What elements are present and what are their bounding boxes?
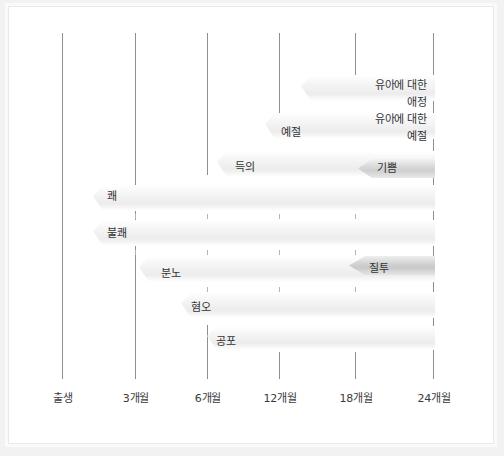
axis-tick-6m	[207, 362, 208, 379]
bar-label-jealousy: 질투	[369, 262, 389, 276]
tick-mark	[135, 250, 136, 255]
tick-mark	[135, 214, 136, 219]
courtesy-infants-line2: 예절	[309, 128, 427, 145]
bar-label-delight: 기쁨	[377, 162, 397, 176]
tick-mark	[355, 214, 356, 219]
tick-mark	[279, 287, 280, 292]
bar-label-anger: 분노	[161, 267, 181, 281]
affection-label-line1: 유아에 대한	[309, 77, 427, 94]
tick-mark	[355, 287, 356, 292]
bar-label-pleasure: 쾌	[107, 190, 117, 204]
gridline-6m-top	[207, 33, 208, 175]
bar-disgust	[181, 292, 435, 318]
axis-label-birth: 출생	[53, 389, 73, 405]
axis-tick-18m	[355, 362, 356, 379]
axis-label-3m: 3개월	[123, 389, 149, 405]
axis-tick-12m	[279, 362, 280, 379]
tick-mark	[279, 214, 280, 219]
courtesy-infants-line1: 유아에 대한	[309, 111, 427, 128]
bar-label-elation: 득의	[235, 161, 255, 175]
gridline-birth-top	[62, 33, 63, 378]
bar-label-courtesy: 예절	[281, 126, 301, 140]
gridline-3m-bottom	[135, 253, 136, 378]
axis-label-18m: 18개월	[339, 389, 372, 405]
axis-label-6m: 6개월	[195, 389, 221, 405]
bar-label-courtesy-to-infants: 유아에 대한 예절	[309, 111, 427, 145]
bar-jealousy	[349, 256, 435, 275]
tick-mark	[207, 287, 208, 292]
tick-mark	[355, 250, 356, 255]
axis-tick-birth	[62, 362, 63, 379]
axis-tick-3m	[135, 362, 136, 379]
bar-label-affection-for-infants: 유아에 대한 애정	[309, 77, 427, 111]
bar-label-fear: 공포	[216, 335, 236, 349]
tick-mark	[207, 214, 208, 219]
axis-label-24m: 24개월	[417, 389, 450, 405]
bar-pleasure	[93, 185, 435, 211]
bar-label-disgust: 혐오	[191, 301, 211, 315]
chart-frame: 유아에 대한 애정 예절 유아에 대한 예절 득의 기쁨 쾌	[8, 6, 494, 444]
tick-mark	[207, 250, 208, 255]
bar-label-distress: 불쾌	[107, 227, 127, 241]
affection-label-line2: 애정	[309, 94, 427, 111]
emotion-differentiation-chart: 유아에 대한 애정 예절 유아에 대한 예절 득의 기쁨 쾌	[9, 7, 493, 443]
bar-fear	[207, 326, 435, 350]
axis-tick-24m	[433, 362, 434, 379]
bar-distress	[93, 220, 435, 246]
tick-mark	[279, 250, 280, 255]
axis-label-12m: 12개월	[263, 389, 296, 405]
